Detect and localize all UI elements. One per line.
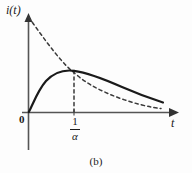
origin-label: 0 [19, 114, 25, 125]
x-axis-label: t [171, 117, 174, 129]
plot-canvas [0, 0, 192, 173]
figure-panel: i(t) t 0 1 α (b) [0, 0, 192, 173]
fraction-numerator: 1 [70, 116, 80, 128]
figure-caption: (b) [0, 156, 192, 167]
fraction-one-over-alpha: 1 α [70, 116, 80, 142]
tick-label-one-over-alpha: 1 α [66, 116, 84, 142]
fraction-denominator: α [70, 131, 80, 143]
y-axis-label: i(t) [6, 4, 21, 16]
